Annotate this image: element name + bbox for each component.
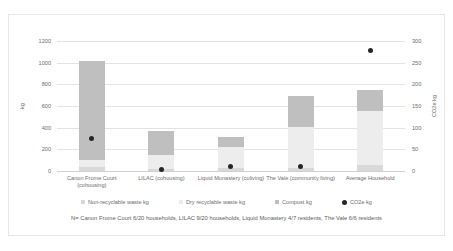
plot-area: kg CO2e kg 02004006008001000120005010015…: [57, 41, 405, 171]
x-axis-category-label: Average Household: [335, 175, 405, 182]
bar-segment[interactable]: [357, 111, 383, 164]
bar-group[interactable]: [57, 41, 127, 171]
x-axis-category-label: Canon Frome Court (cohousing): [57, 175, 127, 190]
stacked-bar[interactable]: [148, 131, 174, 171]
bar-segment[interactable]: [79, 167, 105, 171]
y-axis-left-tick: 1000: [39, 60, 51, 66]
legend-item[interactable]: Dry recyclable waste kg: [179, 199, 245, 205]
bar-segment[interactable]: [218, 137, 244, 147]
y-axis-left-tick: 800: [42, 81, 51, 87]
y-axis-left-tick: 600: [42, 103, 51, 109]
bar-group[interactable]: [266, 41, 336, 171]
y-axis-left-tick: 400: [42, 125, 51, 131]
x-axis-category-label: LILAC (cohousing): [127, 175, 197, 182]
y-axis-right-tick: 150: [412, 103, 421, 109]
y-axis-left-tick: 1200: [39, 38, 51, 44]
y-axis-right-tick: 0: [412, 168, 415, 174]
bar-segment[interactable]: [288, 96, 314, 126]
y-axis-right-tick: 300: [412, 38, 421, 44]
x-axis-category-label: Liquid Monastery (coliving): [196, 175, 266, 182]
y-axis-left-tick: 200: [42, 146, 51, 152]
co2-data-point[interactable]: [368, 48, 373, 53]
bar-group[interactable]: [196, 41, 266, 171]
stacked-bar[interactable]: [288, 96, 314, 171]
legend-marker-circle-icon: [342, 200, 347, 205]
y-axis-left-title: kg: [19, 103, 25, 109]
y-axis-right-title: CO2e kg: [431, 95, 437, 117]
legend-label: Compost kg: [282, 199, 312, 205]
bar-group[interactable]: [335, 41, 405, 171]
y-axis-left-tick: 0: [48, 168, 51, 174]
bar-group[interactable]: [127, 41, 197, 171]
legend-swatch-icon: [179, 200, 183, 204]
y-axis-right-tick: 50: [412, 146, 418, 152]
chart-legend: Non-recyclable waste kgDry recyclable wa…: [9, 199, 444, 205]
bar-segment[interactable]: [357, 165, 383, 172]
bar-segment[interactable]: [148, 131, 174, 154]
bar-segment[interactable]: [79, 160, 105, 167]
legend-swatch-icon: [275, 200, 279, 204]
legend-item[interactable]: Compost kg: [275, 199, 312, 205]
chart-container: kg CO2e kg 02004006008001000120005010015…: [8, 14, 445, 236]
axis-baseline: [57, 171, 405, 172]
legend-label: CO2e kg: [350, 199, 372, 205]
legend-label: Dry recyclable waste kg: [186, 199, 245, 205]
legend-item[interactable]: CO2e kg: [342, 199, 372, 205]
legend-label: Non-recyclable waste kg: [88, 199, 149, 205]
chart-footnote: N= Canon Frome Court 6/20 households, LI…: [9, 215, 444, 221]
y-axis-right-tick: 250: [412, 60, 421, 66]
legend-swatch-icon: [81, 200, 85, 204]
bar-segment[interactable]: [79, 61, 105, 160]
x-axis-category-label: The Vale (community living): [266, 175, 336, 182]
y-axis-right-tick: 100: [412, 125, 421, 131]
legend-item[interactable]: Non-recyclable waste kg: [81, 199, 149, 205]
bar-segment[interactable]: [288, 127, 314, 169]
stacked-bar[interactable]: [79, 61, 105, 171]
y-axis-right-tick: 200: [412, 81, 421, 87]
stacked-bar[interactable]: [357, 90, 383, 171]
bar-segment[interactable]: [357, 90, 383, 111]
